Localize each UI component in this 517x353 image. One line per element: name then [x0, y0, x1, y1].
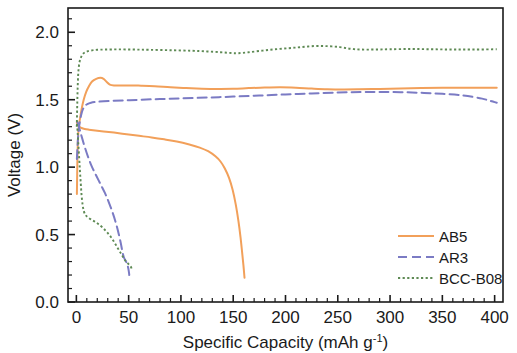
voltage-capacity-plot: 0501001502002503003504000.00.51.01.52.0 … — [0, 0, 517, 353]
y-tick-label-0.5: 0.5 — [35, 226, 59, 245]
legend-label-ab5: AB5 — [439, 228, 467, 245]
x-axis-title-main: Specific Capacity (mAh g — [183, 333, 373, 352]
y-tick-label-2.0: 2.0 — [35, 23, 59, 42]
series-ab5-discharge — [77, 123, 245, 278]
y-tick-label-1.5: 1.5 — [35, 91, 59, 110]
axis-tick-labels: 0501001502002503003504000.00.51.01.52.0 — [35, 23, 508, 327]
axis-ticks — [68, 19, 495, 302]
legend-label-bcc-b08: BCC-B08 — [439, 270, 502, 287]
series-ar3-charge — [77, 92, 497, 159]
series-bcc-b08-discharge — [77, 124, 132, 270]
y-tick-label-0.0: 0.0 — [35, 293, 59, 312]
plot-frame — [68, 8, 503, 302]
x-tick-label-200: 200 — [271, 308, 299, 327]
x-tick-label-100: 100 — [167, 308, 195, 327]
data-series-group — [77, 46, 497, 278]
chart-legend: AB5AR3BCC-B08 — [398, 228, 502, 287]
chart-figure: 0501001502002503003504000.00.51.01.52.0 … — [0, 0, 517, 353]
y-axis-title: Voltage (V) — [5, 113, 24, 197]
x-tick-label-150: 150 — [219, 308, 247, 327]
x-tick-label-250: 250 — [324, 308, 352, 327]
plot-border — [68, 8, 503, 302]
legend-label-ar3: AR3 — [439, 249, 468, 266]
series-ar3-discharge — [77, 122, 129, 275]
x-tick-label-300: 300 — [376, 308, 404, 327]
x-tick-label-0: 0 — [72, 308, 81, 327]
x-tick-label-50: 50 — [119, 308, 138, 327]
y-tick-label-1.0: 1.0 — [35, 158, 59, 177]
x-tick-label-350: 350 — [428, 308, 456, 327]
x-axis-title-superscript: -1 — [373, 332, 383, 344]
x-axis-title: Specific Capacity (mAh g-1) — [183, 332, 388, 352]
x-axis-title-tail: ) — [383, 333, 389, 352]
x-tick-label-400: 400 — [480, 308, 508, 327]
